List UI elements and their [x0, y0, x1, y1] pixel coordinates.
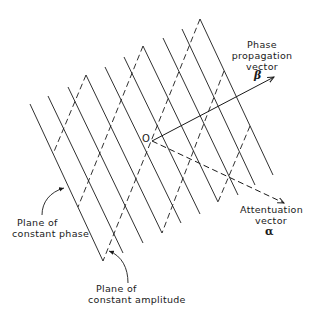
- constant-phase-leader-arrow: [42, 188, 64, 215]
- constant-phase-label-line-2: constant phase: [12, 228, 89, 239]
- beta-symbol: β: [254, 70, 262, 81]
- constant-amplitude-label: Plane of constant amplitude: [88, 283, 186, 305]
- phase-vector-label-line-1: Phase: [230, 39, 294, 50]
- phase-vector-label-line-3: vector: [230, 61, 294, 72]
- constant-phase-label: Plane of constant phase: [12, 217, 89, 239]
- constant-amplitude-label-line-2: constant amplitude: [88, 294, 186, 305]
- alpha-symbol: α: [265, 226, 274, 237]
- phase-vector-label: Phase propagation vector: [230, 39, 294, 72]
- constant-amplitude-plane-line: [78, 46, 143, 207]
- constant-phase-label-line-1: Plane of: [12, 217, 89, 228]
- constant-phase-plane-line: [143, 46, 218, 202]
- constant-amplitude-leader-arrow: [109, 251, 128, 283]
- constant-amplitude-label-line-1: Plane of: [88, 283, 186, 294]
- origin-label: O: [142, 133, 150, 144]
- attenuation-vector-label-line-1: Attentuation: [240, 204, 302, 215]
- phase-vector-label-line-2: propagation: [230, 50, 294, 61]
- attenuation-vector-label: Attentuation vector: [240, 204, 302, 226]
- constant-phase-plane-line: [105, 67, 181, 223]
- constant-phase-plane-line: [163, 38, 238, 195]
- constant-amplitude-plane-line: [162, 71, 224, 233]
- attenuation-vector-arrow: [152, 141, 284, 203]
- phase-propagation-vector-arrow: [152, 77, 274, 141]
